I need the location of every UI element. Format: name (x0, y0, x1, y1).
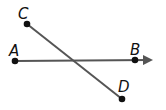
label-c: C (18, 5, 29, 23)
label-b: B (130, 41, 140, 59)
label-d: D (118, 78, 130, 96)
label-a: A (8, 42, 19, 60)
ray-ab (15, 60, 150, 61)
point-d (119, 96, 126, 103)
geometry-diagram: A B C D (0, 0, 166, 110)
